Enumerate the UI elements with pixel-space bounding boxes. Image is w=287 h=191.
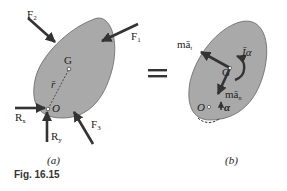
- kinetics-diagram: F2 F1 F3 Rx Ry G O r̄ (a) Fig. 16.15 māt…: [0, 0, 287, 191]
- label-o: O: [52, 102, 60, 114]
- panel-b: māt mān Īα G O α (b): [177, 21, 267, 167]
- label-r: r̄: [51, 78, 56, 90]
- point-g-marker: [67, 67, 71, 71]
- label-ry: Ry: [51, 130, 62, 144]
- label-ma-t: māt: [177, 38, 192, 51]
- point-o-marker: [46, 107, 50, 111]
- label-g-b: G: [222, 66, 230, 78]
- label-f2: F2: [27, 8, 37, 22]
- force-f2-arrow: [28, 18, 55, 42]
- point-o-marker-b: [207, 105, 210, 108]
- equals-sign: [148, 69, 167, 77]
- panel-b-label: (b): [225, 154, 238, 167]
- label-alpha: α: [224, 101, 231, 113]
- label-f1: F1: [131, 30, 141, 44]
- figure-caption: Fig. 16.15: [14, 169, 60, 180]
- label-g: G: [64, 54, 72, 66]
- panel-a-label: (a): [47, 154, 60, 167]
- label-f3: F3: [91, 118, 101, 132]
- label-o-b: O: [197, 101, 205, 113]
- label-rx: Rx: [15, 111, 26, 125]
- label-i-alpha: Īα: [241, 46, 252, 58]
- panel-a: F2 F1 F3 Rx Ry G O r̄ (a): [15, 8, 141, 167]
